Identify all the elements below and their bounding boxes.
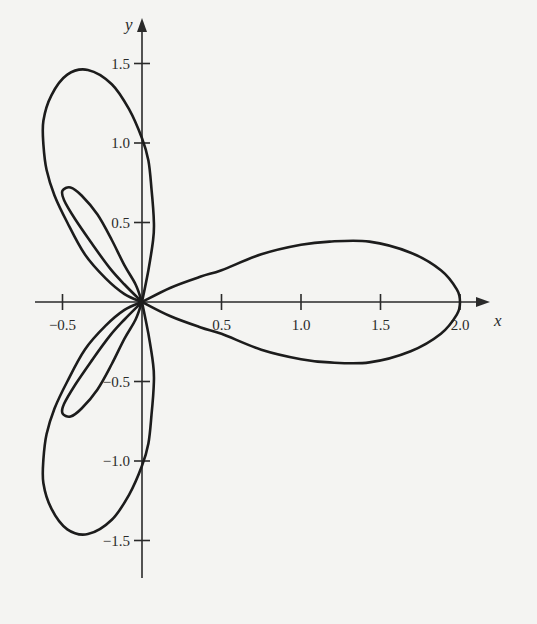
y-axis-arrowhead-icon: [137, 18, 147, 32]
lower-large-lobe-curve: [43, 302, 154, 535]
x-axis-ticks: −0.50.51.01.52.0: [49, 294, 469, 333]
y-tick-label: 1.5: [111, 56, 130, 72]
x-tick-label: 1.0: [292, 317, 311, 333]
x-tick-label: −0.5: [49, 317, 76, 333]
y-tick-label: −1.0: [103, 453, 130, 469]
upper-inner-loop-curve: [62, 187, 142, 302]
x-tick-label: 1.5: [371, 317, 390, 333]
y-axis-label: y: [123, 15, 133, 34]
x-axis-label: x: [493, 311, 502, 330]
y-tick-label: 0.5: [111, 215, 130, 231]
axes: x y −0.50.51.01.52.0 1.51.00.5−0.5−1.0−1…: [35, 15, 502, 578]
upper-large-lobe-curve: [43, 69, 154, 302]
x-axis-arrowhead-icon: [476, 297, 490, 307]
polar-curve-chart: x y −0.50.51.01.52.0 1.51.00.5−0.5−1.0−1…: [0, 0, 537, 624]
y-tick-label: 1.0: [111, 135, 130, 151]
y-tick-label: −1.5: [103, 533, 130, 549]
